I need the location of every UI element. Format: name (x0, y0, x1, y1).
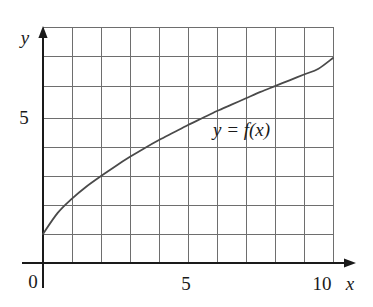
x-tick-label-0: 0 (28, 271, 38, 292)
x-tick-label-5: 5 (181, 273, 191, 294)
graph-svg: y x 0 5 10 5 y = f(x) (0, 0, 373, 307)
y-tick-label-5: 5 (19, 107, 29, 128)
figure-background (0, 0, 373, 307)
x-axis-label: x (345, 273, 355, 294)
x-tick-label-10: 10 (313, 273, 332, 294)
function-graph-figure: y x 0 5 10 5 y = f(x) (0, 0, 373, 307)
curve-equation-label: y = f(x) (211, 119, 270, 141)
y-axis-label: y (19, 27, 30, 48)
